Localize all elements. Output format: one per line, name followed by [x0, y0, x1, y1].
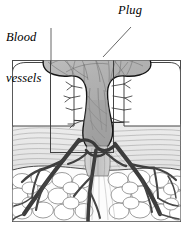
- label-blood-vessels-line1: Blood: [6, 31, 41, 45]
- label-blood-vessels-line2: vessels: [6, 72, 41, 86]
- label-blood-vessels: Blood vessels: [6, 4, 41, 112]
- label-plug: Plug: [118, 4, 142, 18]
- anatomical-figure: Blood vessels Plug: [0, 0, 193, 228]
